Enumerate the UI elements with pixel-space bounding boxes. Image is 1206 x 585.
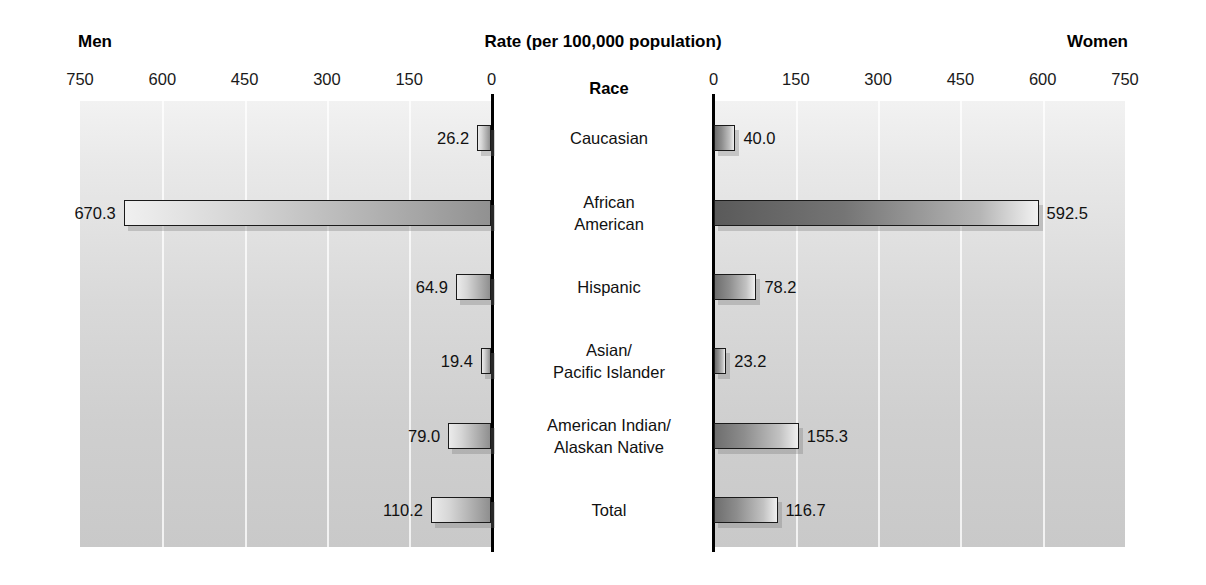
- category-label-1: AfricanAmerican: [513, 191, 705, 235]
- bar-women-0[interactable]: [714, 125, 736, 151]
- category-label-4: American Indian/Alaskan Native: [513, 414, 705, 458]
- bar-value-women-1: 592.5: [1047, 200, 1088, 226]
- bar-men-0[interactable]: [477, 125, 491, 151]
- gridline: [1043, 101, 1045, 547]
- bar-women-5[interactable]: [714, 497, 778, 523]
- category-label-line: Pacific Islander: [513, 361, 705, 383]
- category-label-2: Hispanic: [513, 276, 705, 298]
- bar-men-1[interactable]: [124, 200, 492, 226]
- bar-value-women-4: 155.3: [807, 423, 848, 449]
- axis-tick-label: 750: [66, 70, 94, 89]
- axis-tick-label: 300: [864, 70, 892, 89]
- women-axis-spine: [712, 94, 715, 552]
- axis-tick-label: 300: [313, 70, 341, 89]
- men-axis-spine: [491, 94, 494, 552]
- category-label-5: Total: [513, 499, 705, 521]
- category-label-0: Caucasian: [513, 127, 705, 149]
- axis-tick-label: 600: [149, 70, 177, 89]
- category-label-line: Hispanic: [513, 276, 705, 298]
- bar-value-women-0: 40.0: [743, 125, 775, 151]
- bar-value-women-5: 116.7: [786, 497, 826, 523]
- gridline: [878, 101, 880, 547]
- axis-tick-label: 0: [487, 70, 496, 89]
- women-plot-area: [713, 101, 1125, 547]
- gridline: [796, 101, 798, 547]
- axis-tick-label: 450: [947, 70, 975, 89]
- bar-value-men-4: 79.0: [0, 423, 440, 449]
- bar-value-men-0: 26.2: [0, 125, 469, 151]
- bar-value-women-3: 23.2: [734, 348, 766, 374]
- bar-men-4[interactable]: [448, 423, 491, 449]
- bar-men-3[interactable]: [481, 348, 492, 374]
- category-label-line: African: [513, 191, 705, 213]
- bar-men-5[interactable]: [431, 497, 491, 523]
- category-label-line: Asian/: [513, 339, 705, 361]
- chart-title: Rate (per 100,000 population): [0, 32, 1206, 52]
- bar-women-1[interactable]: [714, 200, 1039, 226]
- women-panel-header: Women: [1067, 32, 1128, 52]
- axis-tick-label: 450: [231, 70, 259, 89]
- bar-value-women-2: 78.2: [764, 274, 796, 300]
- race-column-header: Race: [513, 79, 705, 98]
- axis-tick-label: 150: [782, 70, 810, 89]
- gridline: [245, 101, 247, 547]
- category-label-line: American Indian/: [513, 414, 705, 436]
- bar-value-men-2: 64.9: [0, 274, 448, 300]
- axis-tick-label: 750: [1111, 70, 1139, 89]
- category-label-line: Caucasian: [513, 127, 705, 149]
- category-label-line: Alaskan Native: [513, 436, 705, 458]
- bar-value-men-5: 110.2: [0, 497, 423, 523]
- axis-tick-label: 150: [395, 70, 423, 89]
- bar-men-2[interactable]: [456, 274, 492, 300]
- category-label-line: Total: [513, 499, 705, 521]
- gridline: [960, 101, 962, 547]
- bar-value-men-3: 19.4: [0, 348, 473, 374]
- men-plot-area: [80, 101, 492, 547]
- axis-tick-label: 0: [709, 70, 718, 89]
- axis-tick-label: 600: [1029, 70, 1057, 89]
- bar-value-men-1: 670.3: [0, 200, 116, 226]
- gridline: [409, 101, 411, 547]
- chart-page: Men Rate (per 100,000 population) Women …: [0, 0, 1206, 585]
- bar-women-2[interactable]: [714, 274, 757, 300]
- category-label-line: American: [513, 213, 705, 235]
- bar-women-3[interactable]: [714, 348, 727, 374]
- bar-women-4[interactable]: [714, 423, 799, 449]
- gridline: [327, 101, 329, 547]
- category-label-3: Asian/Pacific Islander: [513, 339, 705, 383]
- gridline: [162, 101, 164, 547]
